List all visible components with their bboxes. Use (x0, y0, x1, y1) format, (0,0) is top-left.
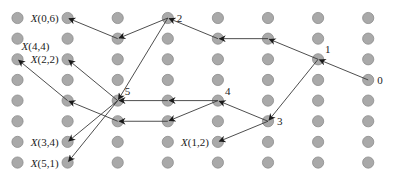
grid-node (12, 116, 23, 127)
grid-node (363, 95, 374, 106)
edge-arrow (19, 60, 68, 100)
node-label-x34: X(3,4) (30, 136, 59, 149)
grid-node (12, 54, 23, 65)
grid-node (112, 12, 123, 23)
step-label-n4: 4 (225, 85, 231, 97)
label-args: (5,1) (38, 157, 59, 170)
edge-arrow (269, 39, 318, 59)
grid-node (212, 116, 223, 127)
grid-node (212, 157, 223, 168)
edge-arrow (169, 101, 218, 121)
edge-arrow (69, 101, 118, 121)
grid-graph-diagram: 012345X(0,6)X(4,4)X(2,2)X(3,4)X(5,1)X(1,… (0, 0, 393, 178)
grid-node (162, 74, 173, 85)
node-labels: 012345X(0,6)X(4,4)X(2,2)X(3,4)X(5,1)X(1,… (21, 12, 384, 170)
label-args: (2,2) (38, 53, 59, 66)
grid-node (12, 157, 23, 168)
grid-node (363, 33, 374, 44)
grid-node (12, 95, 23, 106)
step-label-n2: 2 (177, 12, 183, 24)
grid-node (162, 136, 173, 147)
label-args: (0,6) (38, 12, 59, 25)
grid-node (262, 74, 273, 85)
edge-arrow (219, 121, 268, 141)
edge-arrow (69, 19, 118, 39)
label-args: (1,2) (188, 136, 209, 149)
grid-node (62, 116, 73, 127)
step-label-n1: 1 (325, 43, 331, 55)
grid-node (262, 157, 273, 168)
grid-node (363, 54, 374, 65)
grid-node (262, 95, 273, 106)
grid-node (12, 74, 23, 85)
grid-node (12, 136, 23, 147)
grid-node (62, 54, 73, 65)
grid-node (212, 54, 223, 65)
grid-node (363, 12, 374, 23)
grid-node (363, 136, 374, 147)
grid-node (313, 74, 324, 85)
grid-node (162, 54, 173, 65)
grid-node (313, 157, 324, 168)
grid-node (62, 33, 73, 44)
label-args: (3,4) (38, 136, 59, 149)
edge-arrow (219, 101, 268, 121)
node-label-x44: X(4,4) (21, 40, 50, 53)
edge-arrow (69, 60, 118, 100)
grid-node (112, 54, 123, 65)
grid-node (262, 136, 273, 147)
grid-node (262, 12, 273, 23)
grid-node (313, 136, 324, 147)
grid-node (262, 54, 273, 65)
grid-node (62, 12, 73, 23)
step-label-n0: 0 (377, 74, 383, 86)
grid-node (212, 12, 223, 23)
grid-node (112, 136, 123, 147)
grid-node (62, 136, 73, 147)
grid-node (212, 136, 223, 147)
label-args: (4,4) (28, 40, 49, 53)
grid-node (12, 12, 23, 23)
step-label-n3: 3 (277, 115, 283, 127)
edge-arrow (269, 59, 318, 120)
grid-node (162, 157, 173, 168)
node-label-x22: X(2,2) (30, 53, 59, 66)
grid-node (313, 95, 324, 106)
grid-node (212, 74, 223, 85)
grid-node (162, 33, 173, 44)
grid-node (313, 33, 324, 44)
grid-node (112, 74, 123, 85)
grid-node (112, 157, 123, 168)
node-label-x51: X(5,1) (30, 157, 59, 170)
edge-arrow (69, 101, 118, 141)
grid-node (313, 12, 324, 23)
edge-arrow (119, 18, 168, 38)
node-label-x06: X(0,6) (30, 12, 59, 25)
grid-node (62, 74, 73, 85)
edge-arrow (319, 60, 368, 80)
edge-arrow (69, 101, 118, 162)
grid-node (313, 116, 324, 127)
step-label-n5: 5 (125, 85, 131, 97)
grid-node (363, 116, 374, 127)
grid-node (62, 157, 73, 168)
node-label-x12: X(1,2) (180, 136, 209, 149)
grid-node (363, 157, 374, 168)
